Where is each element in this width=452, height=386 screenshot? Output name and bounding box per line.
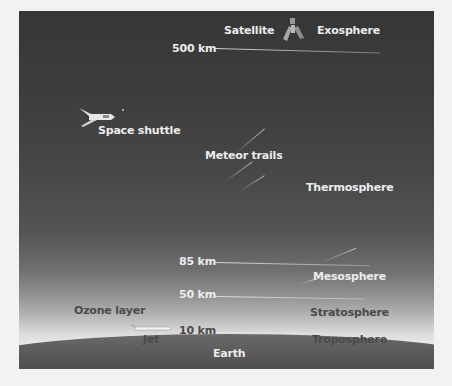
label-troposphere: Troposphere: [312, 333, 387, 346]
label-ozone-layer: Ozone layer: [74, 304, 145, 317]
label-altitude-85km: 85 km: [179, 255, 216, 268]
altitude-line-85km: [215, 262, 370, 266]
shuttle-star: [122, 109, 124, 111]
label-jet: Jet: [143, 333, 159, 346]
label-stratosphere: Stratosphere: [310, 306, 389, 319]
label-altitude-500km: 500 km: [172, 42, 216, 55]
meteor-trail: [321, 248, 357, 263]
satellite-icon: [281, 17, 305, 43]
label-space-shuttle: Space shuttle: [98, 124, 180, 137]
label-satellite: Satellite: [224, 24, 274, 37]
label-altitude-50km: 50 km: [179, 288, 216, 301]
altitude-line-500km: [215, 48, 380, 54]
label-mesosphere: Mesosphere: [313, 270, 386, 283]
label-earth: Earth: [213, 347, 245, 360]
label-thermosphere: Thermosphere: [306, 181, 393, 194]
atmosphere-diagram: Satellite Exosphere 500 km Space shuttle…: [19, 11, 434, 369]
label-altitude-10km: 10 km: [179, 324, 216, 337]
meteor-trail: [239, 175, 265, 192]
label-exosphere: Exosphere: [317, 24, 380, 37]
altitude-line-50km: [215, 296, 365, 300]
label-meteor-trails: Meteor trails: [205, 149, 283, 162]
meteor-trail: [224, 162, 253, 183]
jet-plane-icon: [131, 323, 173, 333]
